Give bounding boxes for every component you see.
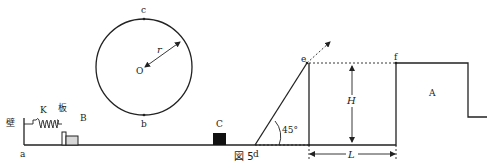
radius-arrow bbox=[145, 42, 180, 67]
point-c-dot bbox=[143, 18, 146, 21]
figure-caption: 図 5 bbox=[234, 151, 254, 162]
plate-label: 板 bbox=[58, 102, 67, 113]
plate bbox=[62, 132, 66, 145]
angle-label: 45° bbox=[282, 125, 298, 135]
angle-arc bbox=[275, 121, 281, 145]
block-b-label: B bbox=[80, 113, 87, 123]
point-b-dot bbox=[143, 114, 146, 117]
height-label: H bbox=[346, 95, 356, 106]
physics-diagram: 壁 a K 板 B c b O r C d 45° e H L bbox=[0, 0, 498, 163]
point-d-label: d bbox=[253, 149, 259, 159]
point-c-label: c bbox=[141, 5, 146, 15]
point-b-label: b bbox=[141, 119, 147, 129]
point-a-label: a bbox=[20, 149, 26, 159]
spring-k-label: K bbox=[40, 105, 47, 115]
ramp bbox=[255, 63, 307, 145]
spring-k bbox=[24, 119, 62, 129]
point-e-label: e bbox=[301, 54, 306, 64]
platform-a-label: A bbox=[428, 88, 436, 98]
block-c bbox=[213, 133, 226, 145]
length-label: L bbox=[347, 149, 355, 160]
wall-label: 壁 bbox=[6, 117, 15, 128]
radius-label: r bbox=[157, 44, 163, 55]
block-b bbox=[66, 136, 78, 145]
center-o-label: O bbox=[136, 66, 143, 76]
loop-circle bbox=[96, 19, 192, 115]
platform-a bbox=[396, 63, 487, 117]
launch-direction-arrow bbox=[307, 42, 330, 63]
point-f-label: f bbox=[394, 52, 398, 62]
block-c-label: C bbox=[216, 119, 223, 129]
